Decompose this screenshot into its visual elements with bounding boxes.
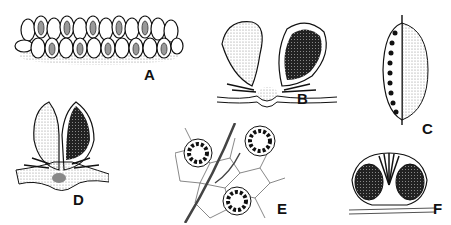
- capsule-cross-section-illustration: [347, 150, 437, 220]
- elongate-sorus-illustration: [378, 15, 438, 125]
- sorus-2: [245, 126, 275, 156]
- sorus-1: [184, 139, 212, 167]
- panel-e: [175, 123, 285, 223]
- two-lobed-indusium-illustration: [14, 100, 109, 200]
- label-f: F: [433, 200, 442, 217]
- sori-row-illustration: [14, 10, 184, 70]
- sorus-3: [223, 187, 251, 215]
- panel-b: [212, 14, 342, 114]
- panel-d: [14, 100, 109, 200]
- radial-sori-network-illustration: [175, 123, 285, 223]
- panel-c: [378, 15, 438, 125]
- label-a: A: [144, 66, 155, 83]
- label-d: D: [73, 191, 84, 208]
- panel-a: [14, 10, 184, 70]
- panel-f: [347, 150, 437, 220]
- label-e: E: [277, 200, 287, 217]
- sporangia-pair-illustration: [212, 14, 342, 114]
- label-c: C: [422, 120, 433, 137]
- label-b: B: [297, 90, 308, 107]
